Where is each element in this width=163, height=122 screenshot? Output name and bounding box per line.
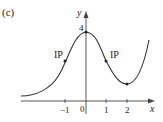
- min-point: [126, 83, 129, 86]
- x-axis-label: x: [149, 103, 155, 114]
- y-axis-label: y: [76, 7, 82, 18]
- function-curve: [21, 32, 149, 96]
- x-tick-label-0: 0: [80, 104, 85, 114]
- inflection-point-left: [64, 60, 67, 63]
- x-tick-label-2: 2: [125, 105, 130, 115]
- x-tick-label-neg1: −1: [60, 105, 70, 115]
- inflection-point-right: [105, 60, 108, 63]
- ip-label-right: IP: [110, 49, 119, 60]
- panel-label: (c): [2, 6, 15, 19]
- x-tick-label-1: 1: [104, 105, 109, 115]
- y-intercept-label: 4: [79, 23, 84, 33]
- ip-label-left: IP: [54, 49, 63, 60]
- max-point: [85, 31, 88, 34]
- function-graph: (c) y x 4 IP IP −1 0 1 2: [0, 0, 163, 122]
- y-axis-arrow-icon: [84, 11, 89, 18]
